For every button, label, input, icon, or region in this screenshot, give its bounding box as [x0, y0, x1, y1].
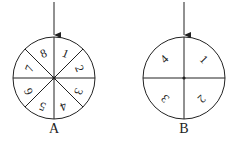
sector-number: 3: [158, 92, 172, 106]
sector-number: 2: [195, 92, 209, 106]
sector-number: 1: [197, 52, 211, 66]
sector-number: 4: [157, 52, 171, 66]
sector-number: 1: [60, 46, 71, 61]
sector-number: 3: [71, 86, 86, 97]
spinner-label: A: [49, 121, 60, 136]
spinner-a: 1 2 3 4 5 6 7 8 A: [13, 2, 95, 136]
sector-number: 5: [37, 99, 48, 114]
sector-number: 7: [22, 63, 37, 74]
spinners-diagram: 1 2 3 4 5 6 7 8 A 1 2 3 4 B: [0, 0, 233, 142]
sector-number: 6: [21, 86, 36, 97]
sector-number: 4: [58, 99, 69, 114]
sector-number: 8: [38, 46, 49, 61]
spinner-b: 1 2 3 4 B: [143, 2, 225, 136]
sector-number: 2: [72, 63, 87, 74]
spinner-label: B: [179, 121, 188, 136]
